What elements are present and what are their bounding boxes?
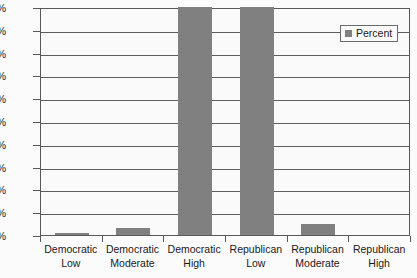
bar-slot bbox=[103, 9, 165, 235]
y-axis-tick-label: 100% bbox=[0, 3, 6, 14]
bar bbox=[55, 233, 89, 235]
legend-label-percent: Percent bbox=[356, 28, 392, 39]
y-axis-tick bbox=[33, 99, 40, 100]
bar-slot bbox=[288, 9, 350, 235]
y-axis-tick-label: 30% bbox=[0, 163, 6, 174]
bar bbox=[240, 7, 274, 235]
x-axis-category-label-line: High bbox=[342, 256, 416, 270]
y-axis-tick-label: 0% bbox=[0, 231, 6, 242]
bar bbox=[178, 7, 212, 235]
plot-area bbox=[40, 8, 410, 236]
y-axis-tick-label: 60% bbox=[0, 94, 6, 105]
bar-slot bbox=[164, 9, 226, 235]
y-axis-tick bbox=[33, 8, 40, 9]
y-axis-tick-label: 10% bbox=[0, 208, 6, 219]
legend-swatch-percent bbox=[345, 30, 352, 37]
y-axis-tick bbox=[33, 76, 40, 77]
y-axis-tick-label: 40% bbox=[0, 140, 6, 151]
y-axis-tick-label: 80% bbox=[0, 49, 6, 60]
bar bbox=[301, 224, 335, 235]
x-axis-category-label: RepublicanHigh bbox=[342, 242, 416, 270]
x-axis-category-label-line: Republican bbox=[342, 242, 416, 256]
chart-legend: Percent bbox=[340, 25, 398, 42]
y-axis-tick-label: 20% bbox=[0, 185, 6, 196]
y-axis-tick-label: 50% bbox=[0, 117, 6, 128]
y-axis-tick bbox=[33, 145, 40, 146]
bar-slot bbox=[226, 9, 288, 235]
y-axis-tick bbox=[33, 168, 40, 169]
y-axis-tick bbox=[33, 31, 40, 32]
bar-slot bbox=[349, 9, 411, 235]
y-axis-tick bbox=[33, 122, 40, 123]
bar-slot bbox=[41, 9, 103, 235]
y-axis-tick bbox=[33, 54, 40, 55]
bar-chart: 100%90%80%70%60%50%40%30%20%10%0% Democr… bbox=[0, 0, 417, 278]
y-axis-tick-label: 90% bbox=[0, 26, 6, 37]
y-axis-tick bbox=[33, 190, 40, 191]
y-axis-tick-label: 70% bbox=[0, 71, 6, 82]
bar bbox=[116, 228, 150, 235]
y-axis-tick bbox=[33, 236, 40, 237]
y-axis-tick bbox=[33, 213, 40, 214]
